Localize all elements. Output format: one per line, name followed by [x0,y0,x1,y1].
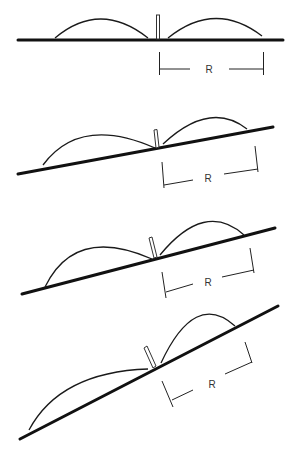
spray-arc-right [168,18,262,38]
spray-arc-left [55,19,148,38]
radius-label: R [208,379,215,390]
radius-label: R [204,173,211,184]
sprinkler-head [149,237,157,258]
sprinkler-head [144,346,156,368]
radius-dimension: R [160,52,264,75]
panel-moderate-slope: R [22,221,275,298]
radius-dimension: R [162,342,252,407]
panel-slight-slope: R [18,117,273,188]
sprinkler-head [154,130,159,149]
sprinkler-head [157,15,160,39]
spray-arc-right [161,314,235,363]
radius-dimension: R [162,146,258,188]
radius-label: R [204,277,211,288]
panel-level: R [18,15,283,75]
spray-arc-left [29,369,148,430]
ground-line [20,306,278,439]
panel-steep-slope: R [20,306,278,439]
radius-dimension: R [162,248,254,298]
radius-label: R [205,64,212,75]
diagram-canvas: R R R [0,0,298,452]
spray-arc-left [45,247,152,287]
